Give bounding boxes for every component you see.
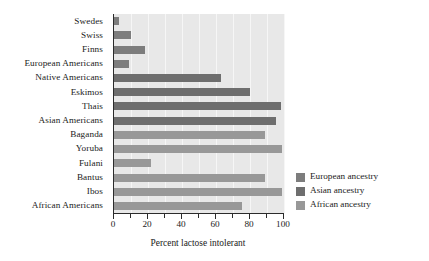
bar <box>114 131 265 139</box>
bar <box>114 188 282 196</box>
bar <box>114 102 281 110</box>
bar <box>114 145 282 153</box>
category-label: Fulani <box>0 156 108 170</box>
x-axis-ticks <box>113 213 283 219</box>
x-axis-tick-labels: 020406080100 <box>113 220 283 233</box>
legend-item: African ancestry <box>296 198 426 212</box>
bar-row <box>114 185 284 199</box>
x-tick-label: 80 <box>244 220 253 229</box>
lactose-intolerance-bar-chart: SwedesSwissFinnsEuropean AmericansNative… <box>0 0 429 261</box>
legend-label: European ancestry <box>310 172 378 181</box>
bar <box>114 31 131 39</box>
category-label: Asian Americans <box>0 114 108 128</box>
bar <box>114 17 119 25</box>
bar <box>114 46 145 54</box>
category-label: Swedes <box>0 14 108 28</box>
x-tick <box>232 213 233 218</box>
bar <box>114 74 221 82</box>
bar <box>114 202 242 210</box>
plot-area <box>113 14 284 213</box>
bar-row <box>114 199 284 213</box>
bar <box>114 60 129 68</box>
bar-row <box>114 42 284 56</box>
legend-swatch <box>296 173 305 182</box>
legend-swatch <box>296 201 305 210</box>
x-axis-title: Percent lactose intolerant <box>113 238 283 248</box>
legend-label: Asian ancestry <box>310 186 364 195</box>
x-tick-label: 60 <box>210 220 219 229</box>
x-tick <box>130 213 131 218</box>
bar <box>114 117 276 125</box>
category-label: Bantus <box>0 170 108 184</box>
bar-row <box>114 156 284 170</box>
category-label: Baganda <box>0 128 108 142</box>
legend: European ancestryAsian ancestryAfrican a… <box>296 170 426 212</box>
category-label: Thais <box>0 99 108 113</box>
category-axis: SwedesSwissFinnsEuropean AmericansNative… <box>0 14 108 213</box>
legend-item: European ancestry <box>296 170 426 184</box>
legend-swatch <box>296 187 305 196</box>
bar-row <box>114 85 284 99</box>
bar-row <box>114 57 284 71</box>
gridline <box>284 14 285 213</box>
x-tick-label: 100 <box>276 220 290 229</box>
bar-row <box>114 71 284 85</box>
bar-row <box>114 14 284 28</box>
x-tick <box>266 213 267 218</box>
bar <box>114 174 265 182</box>
category-label: Swiss <box>0 28 108 42</box>
legend-item: Asian ancestry <box>296 184 426 198</box>
bar-row <box>114 114 284 128</box>
bar <box>114 88 250 96</box>
category-label: African Americans <box>0 199 108 213</box>
category-label: Eskimos <box>0 85 108 99</box>
category-label: Yoruba <box>0 142 108 156</box>
bar-row <box>114 99 284 113</box>
x-tick-label: 0 <box>111 220 116 229</box>
category-label: Finns <box>0 42 108 56</box>
category-label: European Americans <box>0 57 108 71</box>
bar <box>114 159 151 167</box>
x-tick-label: 20 <box>142 220 151 229</box>
x-tick <box>164 213 165 218</box>
category-label: Native Americans <box>0 71 108 85</box>
bar-row <box>114 142 284 156</box>
bar-row <box>114 28 284 42</box>
x-tick <box>198 213 199 218</box>
bar-row <box>114 128 284 142</box>
legend-label: African ancestry <box>310 200 371 209</box>
x-tick-label: 40 <box>176 220 185 229</box>
category-label: Ibos <box>0 185 108 199</box>
bar-row <box>114 170 284 184</box>
bars-layer <box>114 14 284 213</box>
